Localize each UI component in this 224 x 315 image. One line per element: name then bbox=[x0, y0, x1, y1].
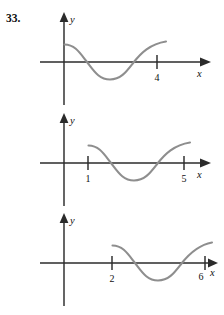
graph-panel-middle: y x 1 5 bbox=[0, 101, 224, 206]
x-axis-arrow-icon bbox=[200, 58, 211, 67]
graph-panel-bottom: y x 2 6 bbox=[0, 201, 224, 306]
sine-curve-top bbox=[65, 42, 167, 80]
y-axis-arrow-icon bbox=[60, 113, 69, 123]
x-tick-label-4: 4 bbox=[155, 72, 160, 83]
y-axis-arrow-icon bbox=[60, 12, 69, 22]
y-axis-label: y bbox=[69, 115, 75, 126]
y-axis-arrow-icon bbox=[60, 213, 69, 223]
x-axis-label: x bbox=[196, 169, 202, 180]
y-axis-label: y bbox=[69, 215, 75, 226]
sine-curve-bottom bbox=[113, 243, 213, 281]
x-tick-label-1: 1 bbox=[86, 173, 91, 184]
x-tick-label-6: 6 bbox=[199, 271, 204, 282]
x-axis-label: x bbox=[209, 267, 215, 278]
sine-curve-middle bbox=[89, 143, 191, 181]
x-tick-label-2: 2 bbox=[110, 273, 115, 284]
exercise-figure: 33. y x 4 y bbox=[0, 0, 224, 315]
y-axis-label: y bbox=[69, 14, 75, 25]
x-axis-label: x bbox=[196, 68, 202, 79]
x-tick-label-5: 5 bbox=[182, 173, 187, 184]
graph-panel-top: y x 4 bbox=[0, 0, 224, 105]
x-axis-arrow-icon bbox=[200, 159, 211, 168]
